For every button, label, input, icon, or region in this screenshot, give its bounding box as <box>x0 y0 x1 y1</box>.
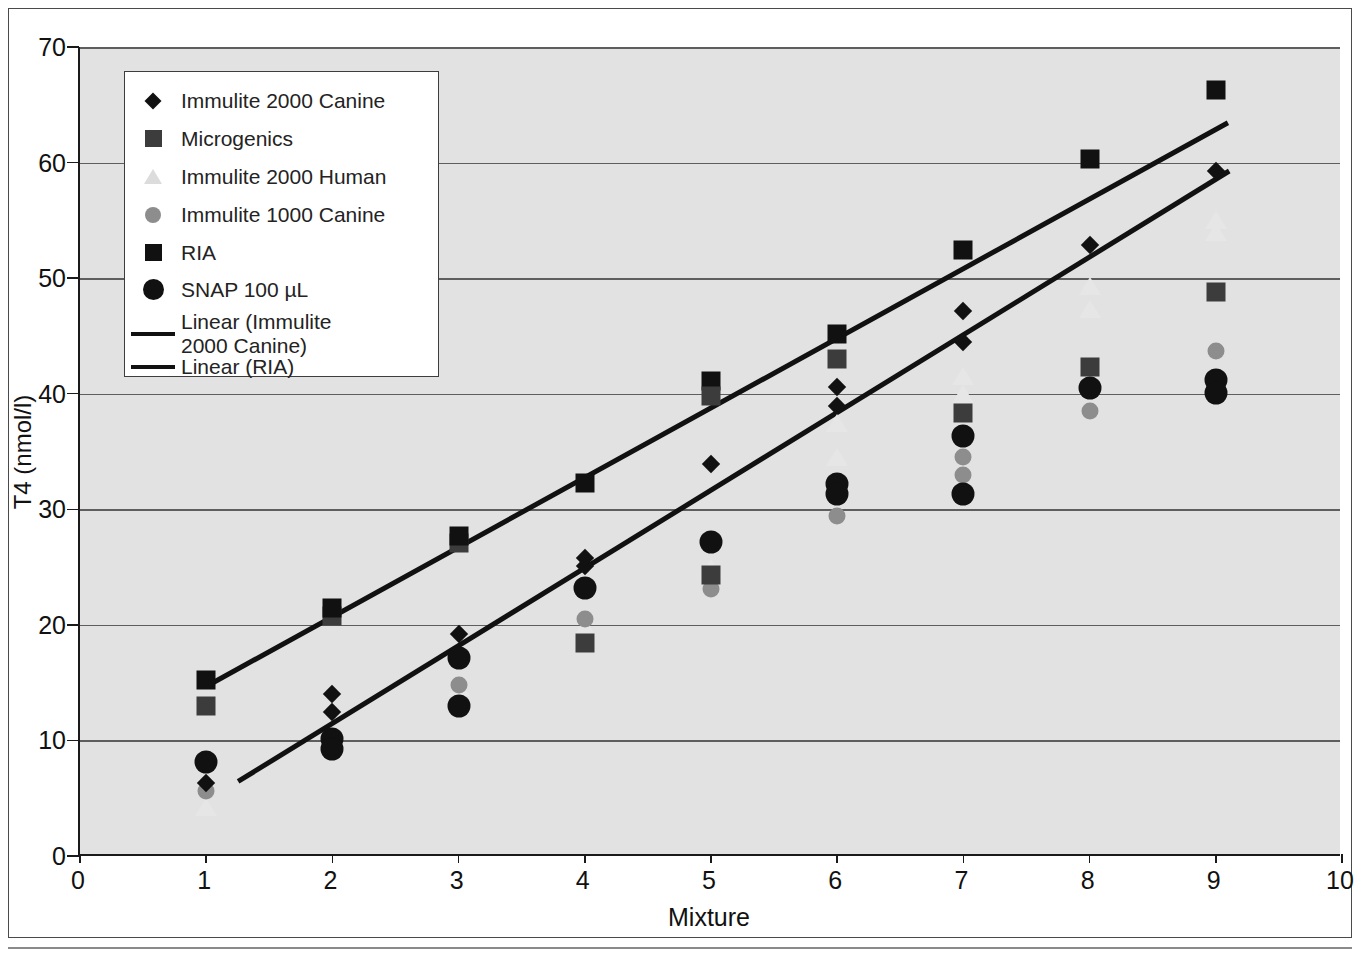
gridline <box>80 625 1340 627</box>
legend-marker-square-icon <box>125 244 181 261</box>
data-point <box>195 751 218 774</box>
x-axis-tick-label: 4 <box>576 866 590 895</box>
data-point <box>826 448 848 466</box>
legend-label: Linear (Immulite2000 Canine) <box>181 310 332 357</box>
legend-label: Microgenics <box>181 127 293 151</box>
data-point <box>447 694 470 717</box>
data-point <box>323 685 341 703</box>
gridline <box>80 509 1340 511</box>
legend-label: Immulite 2000 Canine <box>181 89 385 113</box>
data-point <box>826 414 848 432</box>
x-axis-tick <box>1215 854 1217 863</box>
footer-rule <box>8 947 1352 949</box>
x-axis-tick-label: 3 <box>450 866 464 895</box>
data-point <box>197 696 216 715</box>
legend-marker-circle-icon <box>125 207 181 223</box>
data-point <box>449 526 468 545</box>
y-axis-tick <box>67 855 79 857</box>
data-point <box>1080 150 1099 169</box>
legend-item[interactable]: Immulite 2000 Canine <box>125 89 438 113</box>
gridline <box>80 740 1340 742</box>
legend-item[interactable]: Linear (RIA) <box>125 355 438 379</box>
y-axis-tick-label: 50 <box>38 264 66 293</box>
data-point <box>702 387 721 406</box>
data-point <box>829 508 846 525</box>
x-axis-tick-label: 6 <box>828 866 842 895</box>
legend-item[interactable]: SNAP 100 µL <box>125 278 438 302</box>
x-axis-tick <box>710 854 712 863</box>
data-point <box>573 576 596 599</box>
legend-item[interactable]: Immulite 1000 Canine <box>125 203 438 227</box>
y-axis-label-container: T4 (nmol/l) <box>6 47 40 856</box>
y-axis-tick-label: 0 <box>52 842 66 871</box>
data-point <box>575 634 594 653</box>
x-axis-tick <box>1341 854 1343 863</box>
x-axis-tick <box>79 854 81 863</box>
x-axis-tick-label: 7 <box>954 866 968 895</box>
data-point <box>1080 358 1099 377</box>
y-axis-tick-label: 20 <box>38 610 66 639</box>
legend-marker-diamond-icon <box>125 95 181 107</box>
x-axis-tick <box>458 854 460 863</box>
data-point <box>450 676 467 693</box>
data-point <box>1081 403 1098 420</box>
y-axis-tick <box>67 277 79 279</box>
y-axis-tick <box>67 162 79 164</box>
legend-item[interactable]: RIA <box>125 241 438 265</box>
x-axis-tick <box>205 854 207 863</box>
chart-legend: Immulite 2000 CanineMicrogenicsImmulite … <box>124 71 439 377</box>
chart-page: 010203040506070 T4 (nmol/l) Mixture Immu… <box>0 0 1364 973</box>
legend-marker-line-icon <box>125 332 181 336</box>
data-point <box>954 301 972 319</box>
x-axis-tick-label: 1 <box>197 866 211 895</box>
data-point <box>1206 80 1225 99</box>
y-axis-tick-label: 40 <box>38 379 66 408</box>
data-point <box>702 566 721 585</box>
legend-label: Immulite 2000 Human <box>181 165 386 189</box>
x-axis-tick <box>963 854 965 863</box>
y-axis-tick <box>67 393 79 395</box>
data-point <box>952 425 975 448</box>
data-point <box>954 241 973 260</box>
data-point <box>1078 376 1101 399</box>
data-point <box>321 737 344 760</box>
data-point <box>1207 342 1224 359</box>
data-point <box>575 473 594 492</box>
gridline <box>80 47 1340 49</box>
x-axis-tick-label: 10 <box>1326 866 1354 895</box>
data-point <box>828 350 847 369</box>
data-point <box>700 530 723 553</box>
data-point <box>1079 300 1101 318</box>
legend-marker-square-icon <box>125 130 181 147</box>
y-axis-tick-label: 10 <box>38 726 66 755</box>
data-point <box>828 324 847 343</box>
data-point <box>323 598 342 617</box>
legend-item[interactable]: Linear (Immulite2000 Canine) <box>125 310 438 357</box>
data-point <box>702 455 720 473</box>
data-point <box>954 404 973 423</box>
legend-marker-circle-large-icon <box>125 279 181 300</box>
x-axis-tick-label: 5 <box>702 866 716 895</box>
data-point <box>576 611 593 628</box>
data-point <box>197 671 216 690</box>
x-axis-tick <box>584 854 586 863</box>
data-point <box>1205 211 1227 229</box>
legend-item[interactable]: Immulite 2000 Human <box>125 165 438 189</box>
data-point <box>826 483 849 506</box>
data-point <box>447 647 470 670</box>
y-axis-tick-label: 30 <box>38 495 66 524</box>
x-axis-tick <box>332 854 334 863</box>
legend-label: Immulite 1000 Canine <box>181 203 385 227</box>
data-point <box>952 483 975 506</box>
x-axis-tick-label: 2 <box>323 866 337 895</box>
y-axis-label: T4 (nmol/l) <box>9 394 37 509</box>
y-axis-tick-label: 70 <box>38 33 66 62</box>
legend-item[interactable]: Microgenics <box>125 127 438 151</box>
x-axis-tick-label: 9 <box>1207 866 1221 895</box>
data-point <box>1206 283 1225 302</box>
data-point <box>952 385 974 403</box>
legend-label: RIA <box>181 241 216 265</box>
x-axis-tick-label: 0 <box>71 866 85 895</box>
legend-marker-line-icon <box>125 365 181 369</box>
y-axis-tick <box>67 509 79 511</box>
